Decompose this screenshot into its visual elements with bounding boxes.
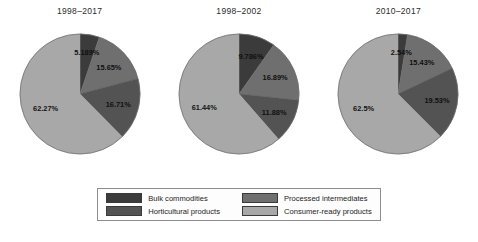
pie-canvas-1: 9.786%16.89%11.88%61.44% (167, 22, 311, 172)
slice-value-label: 11.88% (262, 108, 287, 117)
slice-value-label: 19.53% (425, 96, 450, 105)
pie-svg-2: 2.54%15.43%19.53%62.5% (326, 22, 470, 172)
legend-swatch-horticultural (106, 206, 142, 216)
slice-value-label: 62.5% (353, 104, 374, 113)
slice-value-label: 2.54% (391, 48, 412, 57)
pie-chart-2: 2010–2017 2.54%15.43%19.53%62.5% (322, 6, 474, 172)
legend-item-bulk: Bulk commodities (106, 193, 220, 203)
slice-value-label: 5.189% (74, 48, 99, 57)
slice-value-label: 62.27% (33, 104, 58, 113)
legend-item-processed: Processed intermediates (242, 193, 372, 203)
slice-value-label: 9.786% (238, 52, 263, 61)
chart-title-1: 1998–2002 (216, 6, 261, 16)
pie-chart-1: 1998–2002 9.786%16.89%11.88%61.44% (163, 6, 315, 172)
chart-title-2: 2010–2017 (376, 6, 421, 16)
legend-label-consumer: Consumer-ready products (284, 207, 372, 216)
slice-value-label: 15.43% (410, 58, 435, 67)
legend-swatch-bulk (106, 193, 142, 203)
pie-chart-figure: 1998–2017 5.189%15.65%16.71%62.27% 1998–… (0, 0, 478, 242)
pie-canvas-2: 2.54%15.43%19.53%62.5% (326, 22, 470, 172)
legend-swatch-processed (242, 193, 278, 203)
slice-value-label: 16.89% (263, 73, 288, 82)
legend-label-horticultural: Horticultural products (148, 207, 220, 216)
legend-wrap: Bulk commodities Processed intermediates… (0, 188, 478, 221)
legend-item-horticultural: Horticultural products (106, 206, 220, 216)
legend-swatch-consumer (242, 206, 278, 216)
slice-value-label: 16.71% (105, 100, 130, 109)
slice-value-label: 15.65% (96, 63, 121, 72)
pie-svg-0: 5.189%15.65%16.71%62.27% (8, 22, 152, 172)
slice-value-label: 61.44% (192, 103, 217, 112)
pie-chart-0: 1998–2017 5.189%15.65%16.71%62.27% (4, 6, 156, 172)
legend-box: Bulk commodities Processed intermediates… (97, 188, 381, 221)
chart-title-0: 1998–2017 (57, 6, 102, 16)
legend-label-processed: Processed intermediates (284, 194, 368, 203)
pie-svg-1: 9.786%16.89%11.88%61.44% (167, 22, 311, 172)
pie-canvas-0: 5.189%15.65%16.71%62.27% (8, 22, 152, 172)
legend-item-consumer: Consumer-ready products (242, 206, 372, 216)
legend-label-bulk: Bulk commodities (148, 194, 208, 203)
charts-row: 1998–2017 5.189%15.65%16.71%62.27% 1998–… (0, 0, 478, 188)
